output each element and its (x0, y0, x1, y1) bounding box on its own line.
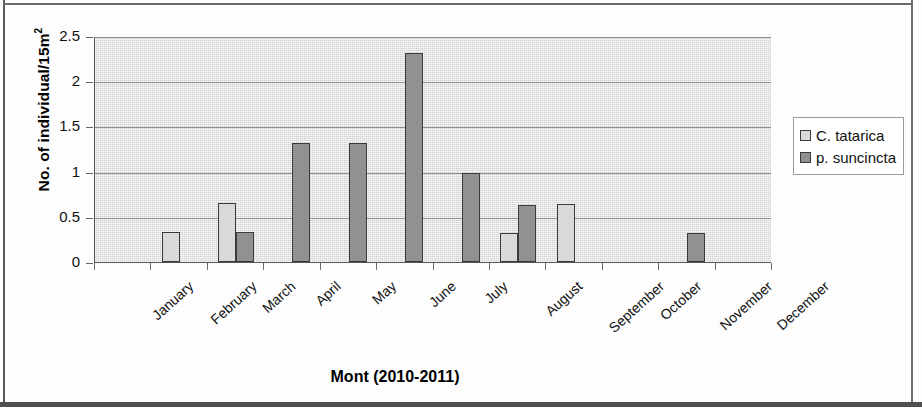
x-axis-label-october: October (657, 278, 705, 323)
bar-february-series1 (162, 232, 180, 262)
x-axis-label-november: November (717, 278, 776, 333)
x-axis-tick (658, 263, 659, 270)
gridline (95, 218, 771, 219)
x-axis-tick (207, 263, 208, 270)
x-axis-label-april: April (313, 278, 345, 309)
y-axis-tick (86, 82, 93, 83)
y-axis-tick-label: 2 (72, 72, 80, 89)
x-axis-tick (545, 263, 546, 270)
x-axis-tick (602, 263, 603, 270)
bar-march-series2 (236, 232, 254, 262)
x-axis-tick (715, 263, 716, 270)
gridline (95, 37, 771, 38)
legend-swatch-icon (800, 130, 811, 141)
bar-may-series2 (349, 143, 367, 262)
x-axis-tick (376, 263, 377, 270)
y-axis-labels: 00.511.522.5 (28, 0, 80, 300)
x-axis-tick (433, 263, 434, 270)
x-axis-label-january: January (149, 278, 197, 323)
bar-september-series1 (557, 204, 575, 262)
x-axis-label-august: August (542, 278, 585, 319)
x-axis-tick (94, 263, 95, 270)
y-axis-tick (86, 263, 93, 264)
scanned-figure-page: No. of individual/15m2 00.511.522.5 Janu… (0, 0, 922, 413)
x-axis-label-july: July (481, 278, 510, 307)
bar-april-series2 (292, 143, 310, 262)
x-axis-tick (489, 263, 490, 270)
bar-march-series1 (218, 203, 236, 262)
y-axis-tick-label: 1 (72, 163, 80, 180)
bar-chart: No. of individual/15m2 00.511.522.5 Janu… (0, 0, 922, 413)
legend: C. tataricap. suncincta (793, 117, 904, 175)
x-axis-label-february: February (207, 278, 259, 327)
bar-july-series2 (462, 173, 480, 262)
bar-november-series2 (687, 233, 705, 262)
x-axis-label-may: May (369, 278, 399, 308)
x-axis-label-june: June (426, 278, 459, 310)
y-axis-tick-label: 0 (72, 253, 80, 270)
legend-label: p. suncincta (816, 149, 896, 166)
gridline (95, 82, 771, 83)
y-axis-tick-label: 1.5 (59, 117, 80, 134)
y-axis-tick (86, 37, 93, 38)
x-axis-label-december: December (773, 278, 832, 333)
plot-area (94, 37, 771, 263)
y-axis-tick (86, 218, 93, 219)
bar-june-series2 (405, 53, 423, 262)
legend-swatch-icon (800, 152, 811, 163)
legend-item: C. tatarica (800, 124, 896, 146)
bar-august-series1 (500, 233, 518, 262)
bar-august-series2 (518, 205, 536, 262)
y-axis-tick-label: 0.5 (59, 208, 80, 225)
plot-background-texture (95, 37, 771, 262)
gridline (95, 173, 771, 174)
y-axis-tick-label: 2.5 (59, 27, 80, 44)
x-axis-tick (150, 263, 151, 270)
x-axis-title: Mont (2010-2011) (0, 368, 790, 386)
x-axis-tick (263, 263, 264, 270)
x-axis-label-september: September (605, 278, 667, 336)
y-axis-tick (86, 173, 93, 174)
legend-item: p. suncincta (800, 146, 896, 168)
gridline (95, 127, 771, 128)
x-axis-tick (320, 263, 321, 270)
y-axis-tick (86, 127, 93, 128)
x-axis-label-march: March (259, 278, 299, 316)
legend-label: C. tatarica (816, 127, 884, 144)
x-axis-tick (771, 263, 772, 270)
